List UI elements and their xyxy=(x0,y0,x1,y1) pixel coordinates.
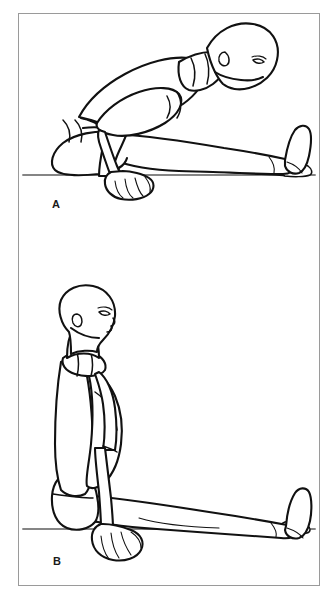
figure-page: A xyxy=(0,0,336,594)
near-leg-a xyxy=(114,134,294,174)
panel-label-a: A xyxy=(52,199,60,210)
panel-b-illustration xyxy=(19,284,321,587)
panel-label-b: B xyxy=(53,556,61,567)
hand-a xyxy=(105,171,154,200)
near-foot-b xyxy=(285,488,311,538)
panel-a-illustration xyxy=(19,14,321,264)
figure-frame-border: A xyxy=(18,13,320,586)
